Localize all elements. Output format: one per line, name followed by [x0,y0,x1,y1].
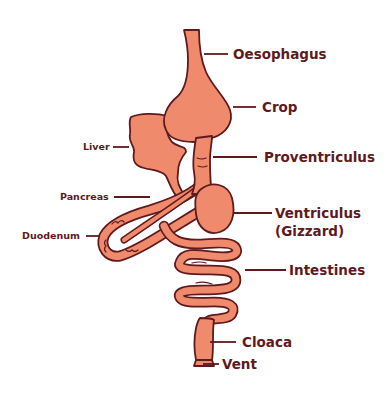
label-crop: Crop [233,99,298,115]
label-ventriculus: Ventriculus (Gizzard) [234,205,361,239]
digestive-system-diagram: Oesophagus Crop Liver Proventriculus Pan… [0,0,386,394]
label-liver: Liver [83,141,129,152]
label-proventriculus: Proventriculus [213,149,375,165]
label-oesophagus: Oesophagus [204,46,327,62]
cloaca [195,318,215,360]
svg-text:Pancreas: Pancreas [60,191,109,202]
label-cloaca: Cloaca [210,334,292,350]
svg-text:Duodenum: Duodenum [22,230,80,241]
svg-text:(Gizzard): (Gizzard) [275,223,344,239]
svg-text:Oesophagus: Oesophagus [233,46,327,62]
svg-text:Vent: Vent [222,356,257,372]
svg-text:Ventriculus: Ventriculus [275,205,361,221]
svg-text:Liver: Liver [83,141,110,152]
svg-text:Intestines: Intestines [289,262,365,278]
ventriculus [195,184,233,233]
crop [164,30,231,144]
svg-text:Proventriculus: Proventriculus [264,149,375,165]
label-intestines: Intestines [245,262,365,278]
vent [194,360,214,366]
svg-text:Crop: Crop [262,99,298,115]
label-duodenum: Duodenum [22,230,99,241]
svg-text:Cloaca: Cloaca [242,334,292,350]
label-pancreas: Pancreas [60,191,150,202]
